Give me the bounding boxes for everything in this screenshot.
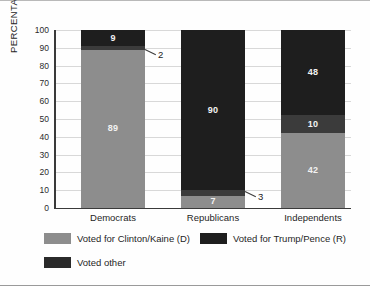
y-tick-80: 80 <box>15 61 49 71</box>
legend-label-other: Voted other <box>77 258 126 268</box>
segment-label: 48 <box>308 68 318 77</box>
legend-swatch-other-icon <box>44 257 71 268</box>
bar-independents[interactable]: 42 10 48 <box>281 30 345 208</box>
segment-label: 7 <box>210 197 215 206</box>
segment-democrats-trump[interactable]: 9 <box>81 30 145 46</box>
bar-democrats[interactable]: 89 2 9 <box>81 30 145 208</box>
legend-row-1: Voted for Clinton/Kaine (D) Voted for Tr… <box>44 233 354 253</box>
y-tick-60: 60 <box>15 96 49 106</box>
segment-democrats-clinton[interactable]: 89 <box>81 50 145 208</box>
segment-independents-clinton[interactable]: 42 <box>281 133 345 208</box>
x-label-democrats: Democrats <box>58 212 168 223</box>
segment-label: 10 <box>308 120 318 129</box>
segment-label: 90 <box>208 106 218 115</box>
y-tick-30: 30 <box>15 150 49 160</box>
bar-republicans[interactable]: 7 3 90 <box>181 30 245 208</box>
segment-label: 9 <box>110 34 115 43</box>
segment-label: 89 <box>108 124 118 133</box>
y-tick-50: 50 <box>15 114 49 124</box>
legend-row-2: Voted other <box>44 253 354 273</box>
y-tick-90: 90 <box>15 43 49 53</box>
plot-area: 100 90 80 70 60 50 40 30 20 10 0 89 2 9 <box>55 30 351 208</box>
segment-republicans-clinton[interactable]: 7 <box>181 196 245 208</box>
segment-independents-trump[interactable]: 48 <box>281 30 345 115</box>
legend: Voted for Clinton/Kaine (D) Voted for Tr… <box>44 233 354 273</box>
legend-item-other[interactable]: Voted other <box>44 257 126 268</box>
y-tick-100: 100 <box>15 25 49 35</box>
x-label-independents: Independents <box>258 212 368 223</box>
segment-independents-other[interactable]: 10 <box>281 115 345 133</box>
legend-label-trump: Voted for Trump/Pence (R) <box>233 234 346 244</box>
legend-label-clinton: Voted for Clinton/Kaine (D) <box>77 234 190 244</box>
legend-item-clinton[interactable]: Voted for Clinton/Kaine (D) <box>44 233 190 244</box>
callout-republicans-other: 3 <box>258 191 263 202</box>
y-tick-0: 0 <box>15 203 49 213</box>
y-tick-40: 40 <box>15 132 49 142</box>
y-tick-70: 70 <box>15 78 49 88</box>
callout-democrats-other: 2 <box>158 49 163 60</box>
y-tick-10: 10 <box>15 185 49 195</box>
segment-republicans-trump[interactable]: 90 <box>181 30 245 190</box>
segment-republicans-other[interactable]: 3 <box>181 190 245 195</box>
x-label-republicans: Republicans <box>158 212 268 223</box>
segment-democrats-other[interactable]: 2 <box>81 46 145 50</box>
legend-item-trump[interactable]: Voted for Trump/Pence (R) <box>200 233 346 244</box>
y-axis-line <box>54 30 56 208</box>
legend-swatch-trump-icon <box>200 233 227 244</box>
chart-frame: PERCENTAGE 100 90 80 70 60 50 40 30 20 1… <box>0 0 370 286</box>
legend-swatch-clinton-icon <box>44 233 71 244</box>
segment-label: 42 <box>308 166 318 175</box>
y-tick-20: 20 <box>15 167 49 177</box>
